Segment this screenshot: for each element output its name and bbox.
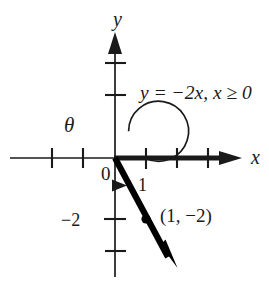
point-marker-dot bbox=[141, 214, 150, 223]
y-tick-minus-two-label: −2 bbox=[61, 210, 80, 230]
coordinate-plane-svg: y x 0 θ 1 −2 y = −2x, x ≥ 0 (1, −2) bbox=[0, 0, 269, 290]
origin-label: 0 bbox=[101, 163, 111, 184]
x-axis-group bbox=[10, 148, 242, 169]
y-axis-group bbox=[104, 32, 126, 277]
x-tick-one-label: 1 bbox=[138, 175, 147, 195]
math-figure: y x 0 θ 1 −2 y = −2x, x ≥ 0 (1, −2) bbox=[0, 0, 269, 290]
y-axis-arrowhead bbox=[108, 32, 122, 54]
y-axis-label: y bbox=[111, 8, 122, 31]
angle-theta-label: θ bbox=[64, 113, 74, 137]
equation-label: y = −2x, x ≥ 0 bbox=[138, 82, 252, 103]
point-coordinate-label: (1, −2) bbox=[160, 205, 212, 227]
x-axis-arrowhead bbox=[219, 151, 242, 165]
x-axis-label: x bbox=[250, 146, 260, 168]
angle-arc bbox=[129, 101, 189, 161]
